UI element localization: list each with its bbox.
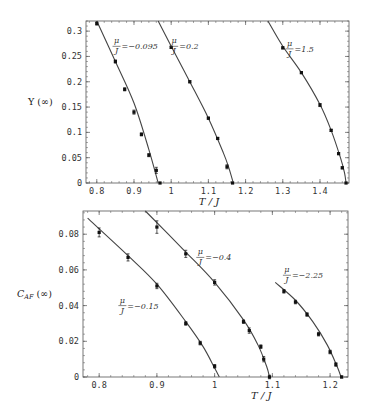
x-tick-label: 1.3 <box>275 186 290 196</box>
data-point <box>300 71 303 74</box>
svg-text:=0.2: =0.2 <box>179 42 198 51</box>
fit-curve <box>145 211 269 377</box>
data-point <box>281 46 284 49</box>
y-tick-label: 0.2 <box>67 77 82 87</box>
y-tick-label: 0.15 <box>62 102 82 112</box>
data-point <box>123 88 126 91</box>
data-point <box>216 137 219 140</box>
plot-frame <box>83 211 348 377</box>
data-point <box>344 181 347 184</box>
series-label: μJ=−2.25 <box>283 265 323 284</box>
x-tick-label: 0.9 <box>126 186 141 196</box>
data-point <box>242 320 245 323</box>
data-point <box>147 154 150 157</box>
data-point <box>268 375 271 378</box>
bottom-chart-caf: 0.80.911.11.200.020.040.060.08T / JCAF (… <box>17 211 348 401</box>
y-tick-label: 0.08 <box>59 229 79 239</box>
figure: 0.80.911.11.21.31.400.050.10.150.20.250.… <box>0 0 368 408</box>
series-J2.25: μJ=−2.25 <box>275 265 343 378</box>
series-label: μJ=−0.4 <box>196 247 231 266</box>
series-J0.095: μJ=−0.095 <box>95 21 161 185</box>
data-point <box>184 322 187 325</box>
svg-text:=1.5: =1.5 <box>295 45 314 54</box>
series-label: μJ=−0.15 <box>118 296 158 315</box>
y-tick-label: 0 <box>77 178 82 188</box>
top-chart-upsilon: 0.80.911.11.21.31.400.050.10.150.20.250.… <box>27 21 349 207</box>
data-point <box>231 181 234 184</box>
y-tick-label: 0.1 <box>67 127 82 137</box>
data-point <box>155 169 158 172</box>
data-point <box>114 60 117 63</box>
data-point <box>213 365 216 368</box>
data-point <box>337 152 340 155</box>
x-tick-label: 0.9 <box>149 380 164 390</box>
series-label: μJ=1.5 <box>286 39 314 58</box>
y-tick-label: 0.02 <box>59 336 79 346</box>
data-point <box>155 225 158 228</box>
svg-text:μ: μ <box>114 36 119 45</box>
data-point <box>259 345 262 348</box>
svg-text:μ: μ <box>120 296 125 305</box>
svg-text:=−0.095: =−0.095 <box>122 42 158 51</box>
data-point <box>158 181 161 184</box>
y-tick-label: 0 <box>74 372 79 382</box>
data-point <box>126 256 129 259</box>
svg-text:J: J <box>197 257 203 266</box>
series-label: μJ=−0.095 <box>113 36 158 55</box>
svg-text:=−2.25: =−2.25 <box>292 271 323 280</box>
series-J1.5: μJ=1.5 <box>268 21 348 185</box>
x-tick-label: 1.4 <box>312 186 327 196</box>
x-tick-label: 1.2 <box>238 186 253 196</box>
data-point <box>95 22 98 25</box>
data-point <box>225 165 228 168</box>
data-point <box>140 133 143 136</box>
fit-curve <box>88 218 220 377</box>
data-point <box>340 375 343 378</box>
data-point <box>184 252 187 255</box>
data-point <box>305 313 308 316</box>
x-tick-label: 1 <box>212 380 217 390</box>
x-axis-label: T / J <box>199 196 220 207</box>
data-point <box>341 166 344 169</box>
data-point <box>207 117 210 120</box>
fit-curve <box>275 282 341 377</box>
data-point <box>132 111 135 114</box>
svg-text:J: J <box>286 49 292 58</box>
x-tick-label: 1.1 <box>201 186 216 196</box>
data-point <box>317 333 320 336</box>
svg-text:J: J <box>283 275 289 284</box>
svg-text:μ: μ <box>284 265 289 274</box>
data-point <box>155 284 158 287</box>
x-tick-label: 1.2 <box>322 380 337 390</box>
svg-text:J: J <box>113 46 119 55</box>
svg-text:=−0.15: =−0.15 <box>127 302 158 311</box>
series-J0.4: μJ=−0.4 <box>145 211 271 379</box>
data-point <box>334 363 337 366</box>
y-axis-label: CAF (∞) <box>17 288 52 301</box>
data-point <box>329 350 332 353</box>
svg-text:μ: μ <box>287 39 292 48</box>
data-point <box>199 341 202 344</box>
x-tick-label: 1.1 <box>265 380 280 390</box>
series-label: μJ=0.2 <box>170 36 198 55</box>
data-point <box>330 129 333 132</box>
data-point <box>188 80 191 83</box>
data-point <box>318 103 321 106</box>
y-tick-label: 0.3 <box>67 26 82 36</box>
x-tick-label: 0.8 <box>89 186 104 196</box>
series-J0.2: μJ=0.2 <box>158 21 234 185</box>
y-tick-label: 0.04 <box>59 301 79 311</box>
x-axis-label: T / J <box>251 390 272 401</box>
svg-text:J: J <box>119 306 125 315</box>
svg-text:μ: μ <box>172 36 177 45</box>
data-point <box>98 231 101 234</box>
data-point <box>294 300 297 303</box>
svg-text:μ: μ <box>198 247 203 256</box>
y-axis-label: Υ (∞) <box>27 96 53 107</box>
y-tick-label: 0.05 <box>62 153 82 163</box>
x-tick-label: 1 <box>169 186 174 196</box>
series-J0.15: μJ=−0.15 <box>88 218 220 377</box>
svg-text:=−0.4: =−0.4 <box>205 253 231 262</box>
data-point <box>282 290 285 293</box>
y-tick-label: 0.25 <box>62 51 82 61</box>
